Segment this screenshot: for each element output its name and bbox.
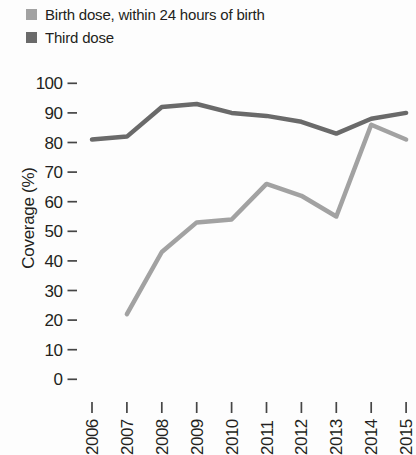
legend-item-birth-dose: Birth dose, within 24 hours of birth — [26, 4, 265, 25]
birth-dose-line — [127, 125, 406, 315]
legend-swatch-third-dose-icon — [26, 32, 37, 43]
y-axis-tick-label: 30 — [45, 282, 63, 301]
y-axis-tick-label: 0 — [54, 370, 63, 389]
x-axis-tick-label: 2011 — [258, 420, 277, 455]
x-axis-tick-label: 2015 — [397, 419, 416, 455]
coverage-line-chart: Coverage (%)0102030405060708090100200620… — [0, 0, 416, 455]
y-axis-tick-label: 10 — [45, 341, 63, 360]
y-axis-tick-label: 20 — [45, 311, 63, 330]
hepatitis-coverage-figure: Coverage (%)0102030405060708090100200620… — [0, 0, 416, 455]
y-axis-tick-label: 90 — [45, 104, 63, 123]
y-axis-tick-label: 70 — [45, 163, 63, 182]
chart-legend: Birth dose, within 24 hours of birth Thi… — [26, 4, 265, 48]
y-axis-tick-label: 80 — [45, 134, 63, 153]
legend-label-third-dose: Third dose — [45, 29, 114, 46]
third-dose-line — [92, 104, 406, 140]
x-axis-tick-label: 2014 — [362, 419, 381, 455]
y-axis-label: Coverage (%) — [19, 167, 38, 268]
legend-label-birth-dose: Birth dose, within 24 hours of birth — [45, 6, 265, 23]
y-axis-tick-label: 60 — [45, 193, 63, 212]
legend-item-third-dose: Third dose — [26, 27, 265, 48]
y-axis-tick-label: 50 — [45, 222, 63, 241]
y-axis-tick-label: 100 — [36, 74, 63, 93]
x-axis-tick-label: 2009 — [188, 419, 207, 455]
x-axis-tick-label: 2012 — [292, 419, 311, 455]
x-axis-tick-label: 2007 — [118, 419, 137, 455]
y-axis-tick-label: 40 — [45, 252, 63, 271]
x-axis-tick-label: 2013 — [327, 419, 346, 455]
x-axis-tick-label: 2008 — [153, 419, 172, 455]
x-axis-tick-label: 2010 — [223, 419, 242, 455]
legend-swatch-birth-dose-icon — [26, 9, 37, 20]
x-axis-tick-label: 2006 — [83, 419, 102, 455]
